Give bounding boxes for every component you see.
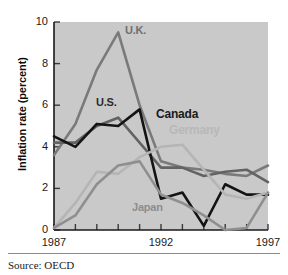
x-tick-label-1987: 1987 [34,236,74,248]
x-tick-label-1992: 1992 [141,236,181,248]
series-label-uk: U.K. [125,24,146,36]
series-label-germany: Germany [169,123,220,137]
x-tick-label-1997: 1997 [248,236,288,248]
source-note: Source: OECD [8,259,74,271]
y-tick-label-0: 0 [28,223,48,235]
y-tick-label-2: 2 [28,181,48,193]
inflation-rate-figure: 0246810 198719921997 Inflation rate (per… [0,0,288,275]
chart-plot-area: 0246810 198719921997 Inflation rate (per… [0,2,288,248]
y-tick-label-4: 4 [28,140,48,152]
series-label-japan: Japan [132,201,163,213]
y-tick-label-8: 8 [28,57,48,69]
y-tick-label-6: 6 [28,98,48,110]
y-tick-label-10: 10 [28,15,48,27]
series-label-canada: Canada [156,107,198,121]
source-divider [8,253,280,254]
y-axis-title: Inflation rate (percent) [16,44,28,184]
series-label-us: U.S. [96,96,117,108]
